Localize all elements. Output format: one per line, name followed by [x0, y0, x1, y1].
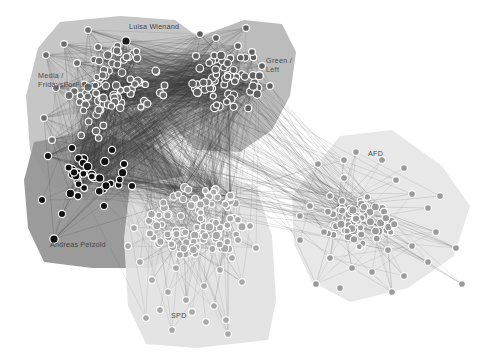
graph-node[interactable] — [189, 80, 197, 88]
graph-node[interactable] — [153, 222, 161, 230]
graph-node[interactable] — [217, 267, 224, 274]
graph-node[interactable] — [146, 230, 153, 237]
graph-node[interactable] — [327, 193, 334, 200]
graph-node[interactable] — [235, 216, 242, 223]
graph-node[interactable] — [307, 203, 314, 210]
graph-node[interactable] — [92, 127, 100, 135]
graph-node[interactable] — [74, 192, 81, 199]
graph-node[interactable] — [371, 203, 379, 211]
graph-node[interactable] — [393, 177, 400, 184]
graph-node[interactable] — [95, 44, 102, 51]
graph-node[interactable] — [201, 232, 208, 239]
graph-node[interactable] — [409, 191, 416, 198]
graph-node[interactable] — [164, 212, 171, 219]
graph-node[interactable] — [339, 207, 346, 214]
graph-node[interactable] — [194, 224, 200, 230]
graph-node[interactable] — [360, 203, 367, 210]
graph-node[interactable] — [341, 175, 348, 182]
graph-node[interactable] — [108, 103, 114, 109]
graph-node[interactable] — [211, 303, 218, 310]
graph-node[interactable] — [401, 165, 408, 172]
graph-node[interactable] — [173, 265, 180, 272]
graph-node[interactable] — [95, 187, 103, 195]
graph-node[interactable] — [337, 285, 344, 292]
graph-node[interactable] — [117, 104, 124, 111]
graph-node[interactable] — [206, 60, 212, 66]
graph-node[interactable] — [164, 231, 171, 238]
graph-node[interactable] — [182, 229, 189, 236]
graph-node[interactable] — [96, 174, 104, 182]
graph-node[interactable] — [337, 220, 345, 228]
graph-node[interactable] — [102, 182, 110, 190]
graph-node[interactable] — [267, 83, 274, 90]
graph-node[interactable] — [217, 51, 225, 59]
graph-node[interactable] — [95, 57, 102, 64]
graph-node[interactable] — [313, 281, 320, 288]
graph-node[interactable] — [200, 79, 208, 87]
graph-node[interactable] — [315, 161, 322, 168]
graph-node[interactable] — [149, 277, 156, 284]
graph-node[interactable] — [152, 67, 159, 74]
graph-node[interactable] — [169, 327, 176, 334]
graph-node[interactable] — [212, 231, 220, 239]
graph-node[interactable] — [259, 63, 266, 70]
graph-node[interactable] — [197, 31, 204, 38]
graph-node[interactable] — [102, 82, 109, 89]
graph-node[interactable] — [65, 92, 73, 100]
graph-node[interactable] — [190, 246, 198, 254]
graph-node[interactable] — [437, 193, 444, 200]
graph-node[interactable] — [229, 255, 236, 262]
graph-node[interactable] — [75, 181, 82, 188]
graph-node[interactable] — [205, 223, 213, 231]
graph-node[interactable] — [350, 236, 358, 244]
graph-node[interactable] — [80, 107, 86, 113]
graph-node[interactable] — [241, 73, 248, 80]
graph-node[interactable] — [143, 315, 150, 322]
graph-node[interactable] — [108, 146, 115, 153]
graph-node[interactable] — [113, 47, 121, 55]
graph-node[interactable] — [425, 259, 432, 266]
graph-node[interactable] — [157, 307, 164, 314]
graph-node[interactable] — [224, 238, 231, 245]
graph-node[interactable] — [249, 49, 256, 56]
graph-node[interactable] — [78, 132, 84, 138]
graph-node[interactable] — [211, 189, 217, 195]
graph-node[interactable] — [227, 215, 234, 222]
graph-node[interactable] — [196, 65, 204, 73]
graph-node[interactable] — [168, 241, 175, 248]
graph-node[interactable] — [225, 331, 232, 338]
graph-node[interactable] — [185, 186, 192, 193]
graph-node[interactable] — [425, 205, 432, 212]
graph-node[interactable] — [183, 297, 190, 304]
graph-node[interactable] — [213, 35, 220, 42]
graph-node[interactable] — [173, 231, 180, 238]
graph-node[interactable] — [93, 90, 100, 97]
graph-node[interactable] — [193, 88, 201, 96]
graph-node[interactable] — [235, 237, 242, 244]
graph-node[interactable] — [80, 170, 87, 177]
graph-node[interactable] — [100, 202, 107, 209]
graph-node[interactable] — [382, 214, 390, 222]
graph-node[interactable] — [58, 210, 65, 217]
graph-node[interactable] — [61, 41, 68, 48]
graph-node[interactable] — [409, 243, 416, 250]
graph-node[interactable] — [433, 229, 440, 236]
graph-node[interactable] — [239, 279, 246, 286]
graph-node[interactable] — [165, 289, 172, 296]
graph-node[interactable] — [353, 149, 360, 156]
graph-node[interactable] — [224, 59, 231, 66]
graph-node[interactable] — [247, 223, 254, 230]
graph-node[interactable] — [253, 245, 260, 252]
graph-node[interactable] — [95, 135, 102, 142]
graph-node[interactable] — [245, 105, 252, 112]
graph-node[interactable] — [212, 66, 220, 74]
graph-node[interactable] — [223, 317, 230, 324]
graph-node[interactable] — [132, 81, 139, 88]
graph-node[interactable] — [133, 54, 140, 61]
graph-node[interactable] — [128, 182, 135, 189]
graph-node[interactable] — [104, 51, 112, 59]
graph-node[interactable] — [356, 244, 362, 250]
graph-node[interactable] — [189, 309, 196, 316]
graph-node[interactable] — [325, 208, 332, 215]
graph-node[interactable] — [230, 67, 237, 74]
